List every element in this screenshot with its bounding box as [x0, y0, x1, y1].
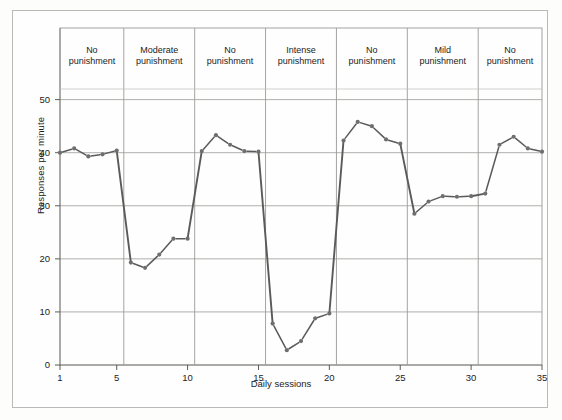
y-axis-label: Responses per minute: [35, 96, 46, 236]
x-tick-label: 1: [40, 372, 80, 383]
phase-label: Nopunishment: [465, 45, 555, 67]
y-tick-label: 20: [12, 253, 50, 264]
y-tick-label: 40: [12, 147, 50, 158]
phase-label-line2: punishment: [465, 56, 555, 67]
x-tick-label: 5: [97, 372, 137, 383]
x-tick-label: 30: [451, 372, 491, 383]
y-tick-label: 10: [12, 306, 50, 317]
y-tick-label: 0: [12, 359, 50, 370]
y-tick-label: 50: [12, 94, 50, 105]
y-tick-label: 30: [12, 200, 50, 211]
phase-label-line1: No: [465, 45, 555, 56]
x-tick-label: 20: [309, 372, 349, 383]
figure-container: Responses per minute Daily sessions Nopu…: [0, 0, 562, 420]
x-tick-label: 10: [168, 372, 208, 383]
x-tick-label: 15: [238, 372, 278, 383]
x-tick-label: 35: [522, 372, 562, 383]
x-tick-label: 25: [380, 372, 420, 383]
